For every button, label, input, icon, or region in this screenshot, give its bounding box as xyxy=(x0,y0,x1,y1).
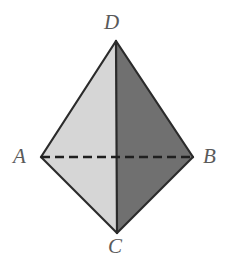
edge-d-c xyxy=(116,41,117,233)
vertex-label-a: A xyxy=(13,146,26,167)
tetrahedron-svg xyxy=(0,0,232,264)
vertex-label-d: D xyxy=(104,12,119,33)
tetrahedron-figure: D A B C xyxy=(0,0,232,264)
vertex-label-b: B xyxy=(203,146,216,167)
vertex-label-c: C xyxy=(108,236,122,257)
